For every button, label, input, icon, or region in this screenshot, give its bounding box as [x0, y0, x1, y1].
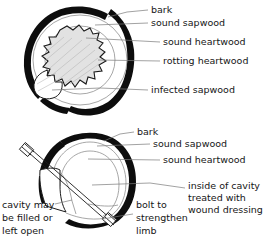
label-bolt-line2: strengthen — [136, 212, 188, 223]
tree-cavity-diagram: bark sound sapwood sound heartwood rotti… — [0, 0, 277, 239]
label-bolt-line1: bolt to — [136, 199, 167, 210]
label-sound-sapwood-bottom: sound sapwood — [153, 138, 227, 149]
label-cavity-open-line2: be filled or — [2, 212, 53, 223]
label-rotting-heartwood-top: rotting heartwood — [163, 55, 248, 66]
label-inside-cavity-line2: treated with — [188, 192, 246, 203]
label-cavity-open-line1: cavity may — [2, 199, 55, 210]
label-sound-sapwood-top: sound sapwood — [151, 17, 225, 28]
label-bark-top: bark — [151, 4, 173, 15]
label-sound-heartwood-top: sound heartwood — [163, 36, 246, 47]
label-inside-cavity-line3: wound dressing — [188, 204, 263, 215]
label-inside-cavity-line1: inside of cavity — [188, 180, 260, 191]
label-bark-bottom: bark — [137, 126, 159, 137]
label-bolt-line3: limb — [136, 225, 157, 236]
label-sound-heartwood-bottom: sound heartwood — [163, 154, 246, 165]
label-cavity-open-line3: left open — [2, 225, 44, 236]
label-infected-sapwood-top: infected sapwood — [151, 84, 235, 95]
